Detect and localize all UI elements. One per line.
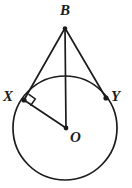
vertex-dot-x bbox=[21, 97, 26, 102]
vertex-dot-b bbox=[63, 26, 68, 31]
vertex-label-x: X bbox=[3, 89, 13, 104]
tangent-segment-by bbox=[65, 28, 106, 98]
radius-segment-ox bbox=[24, 100, 66, 128]
vertex-dot-o bbox=[64, 126, 69, 131]
vertex-dot-y bbox=[103, 95, 108, 100]
segment-bo bbox=[65, 28, 66, 128]
vertex-label-b: B bbox=[60, 3, 70, 18]
geometry-figure: B X Y O bbox=[0, 0, 132, 188]
vertex-label-o: O bbox=[70, 130, 81, 145]
vertex-label-y: Y bbox=[111, 89, 120, 104]
tangent-segment-bx bbox=[24, 28, 65, 100]
